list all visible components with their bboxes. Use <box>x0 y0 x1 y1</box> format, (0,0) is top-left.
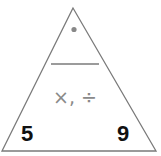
top-dot <box>71 27 76 32</box>
fact-triangle: ×, ÷ 5 9 <box>0 0 161 156</box>
bottom-right-number: 9 <box>117 121 129 146</box>
bottom-left-number: 5 <box>21 121 33 146</box>
operations-label: ×, ÷ <box>53 86 97 108</box>
